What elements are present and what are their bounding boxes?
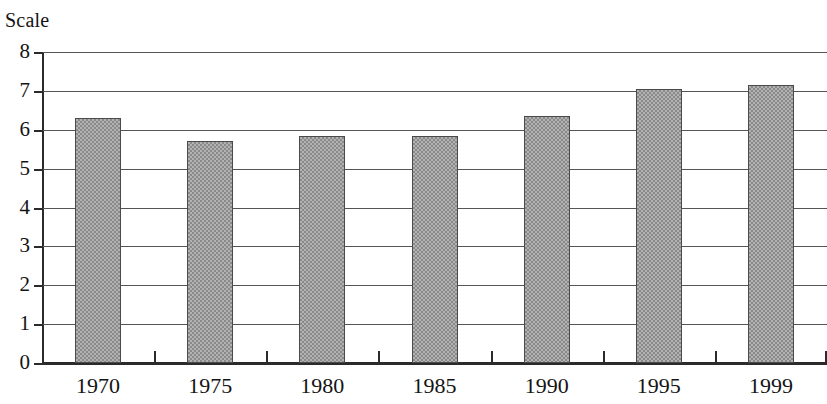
y-axis-tick	[34, 208, 43, 210]
x-axis-tick-label: 1990	[497, 374, 597, 398]
y-axis-tick-label: 1	[4, 313, 30, 334]
x-axis-tick-label: 1995	[609, 374, 709, 398]
x-axis-tick-label: 1970	[48, 374, 148, 398]
y-axis-tick-label: 3	[4, 235, 30, 256]
y-axis-tick	[34, 324, 43, 326]
x-axis-tick	[603, 351, 605, 364]
y-axis-tick	[34, 285, 43, 287]
bar	[636, 89, 682, 363]
x-axis-tick	[491, 351, 493, 364]
x-axis-tick	[154, 351, 156, 364]
y-axis-tick-label: 6	[4, 119, 30, 140]
x-axis-tick-label: 1980	[272, 374, 372, 398]
y-axis-tick-label: 4	[4, 197, 30, 218]
y-axis-tick	[34, 52, 43, 54]
y-axis-tick	[34, 246, 43, 248]
y-axis-tick	[34, 363, 43, 365]
gridline	[42, 130, 827, 131]
x-axis-tick	[378, 351, 380, 364]
bar	[299, 136, 345, 363]
x-axis-tick	[266, 351, 268, 364]
plot-area	[42, 52, 827, 363]
bar	[187, 141, 233, 363]
y-axis-tick	[34, 130, 43, 132]
gridline	[42, 363, 827, 365]
x-axis-tick-label: 1975	[160, 374, 260, 398]
bar-chart: Scale 012345678 197019751980198519901995…	[0, 0, 827, 404]
y-axis-labels: 012345678	[0, 0, 30, 404]
y-axis-tick	[34, 169, 43, 171]
bar	[524, 116, 570, 363]
bar	[748, 85, 794, 363]
y-axis-tick-label: 7	[4, 80, 30, 101]
bar	[412, 136, 458, 363]
x-axis-tick-label: 1985	[385, 374, 485, 398]
gridline	[42, 91, 827, 92]
y-axis-tick	[34, 91, 43, 93]
x-axis-tick-label: 1999	[721, 374, 821, 398]
y-axis-tick-label: 0	[4, 352, 30, 373]
y-axis-tick-label: 2	[4, 274, 30, 295]
bar	[75, 118, 121, 363]
y-axis-tick-label: 8	[4, 41, 30, 62]
x-axis-tick	[715, 351, 717, 364]
gridline	[42, 52, 827, 53]
y-axis-tick-label: 5	[4, 158, 30, 179]
